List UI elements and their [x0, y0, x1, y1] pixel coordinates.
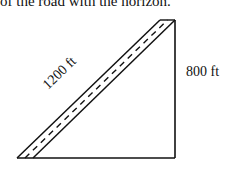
road-edge-inner: [33, 20, 175, 158]
hypotenuse-label: 1200 ft: [40, 53, 79, 92]
vertical-label: 800 ft: [186, 64, 219, 79]
triangle-diagram: 1200 ft 800 ft: [0, 0, 231, 169]
road-edge-outer: [17, 20, 160, 158]
